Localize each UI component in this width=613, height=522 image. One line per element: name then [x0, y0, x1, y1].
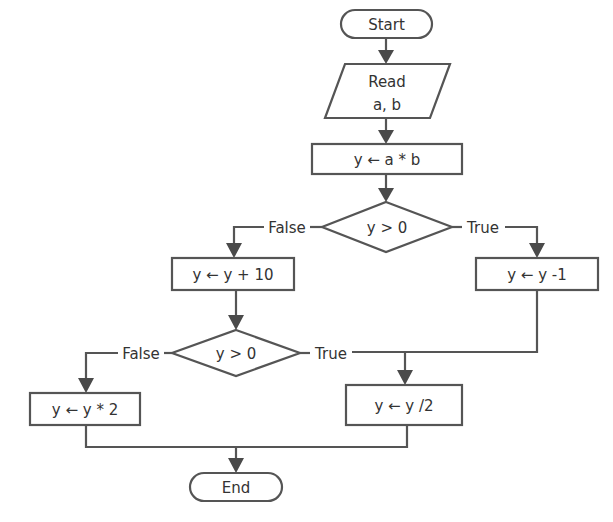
edge-decision1-true: True: [452, 219, 545, 259]
decision2-label: y > 0: [216, 345, 257, 363]
read-label-line2: a, b: [373, 96, 401, 114]
times2-label: y ← y * 2: [52, 401, 118, 419]
edge-decision2-true: True: [300, 345, 537, 363]
arrow-read-to-assign: [378, 118, 394, 144]
assign-ab-node: y ← a * b: [312, 144, 462, 174]
minus1-node: y ← y -1: [476, 258, 598, 290]
decision1-label: y > 0: [367, 219, 408, 237]
arrow-merge-to-half: [397, 352, 413, 385]
decision1-false-label: False: [268, 219, 306, 237]
end-node: End: [190, 473, 282, 501]
arrow-assign-to-decision1: [378, 174, 394, 202]
arrow-start-to-read: [378, 38, 394, 64]
half-node: y ← y /2: [346, 385, 462, 425]
times2-node: y ← y * 2: [30, 393, 140, 425]
assign-ab-label: y ← a * b: [354, 151, 421, 169]
edge-decision1-false: False: [226, 219, 322, 259]
edge-decision2-false: False: [78, 345, 172, 394]
decision2-true-label: True: [314, 345, 347, 363]
decision1-node: y > 0: [322, 202, 452, 252]
decision2-node: y > 0: [172, 330, 300, 376]
decision2-false-label: False: [122, 345, 160, 363]
end-label: End: [222, 479, 251, 497]
arrow-add10-to-decision2: [228, 290, 244, 330]
minus1-label: y ← y -1: [507, 266, 567, 284]
flowchart-canvas: Start Read a, b y ← a * b y > 0 False: [0, 0, 613, 522]
decision1-true-label: True: [466, 219, 499, 237]
start-node: Start: [341, 10, 432, 38]
add10-label: y ← y + 10: [192, 266, 273, 284]
read-input-node: Read a, b: [325, 64, 450, 118]
half-label: y ← y /2: [374, 397, 433, 415]
read-label-line1: Read: [368, 73, 406, 91]
edge-merge-to-end: [86, 425, 407, 473]
add10-node: y ← y + 10: [172, 258, 294, 290]
start-label: Start: [368, 16, 405, 34]
